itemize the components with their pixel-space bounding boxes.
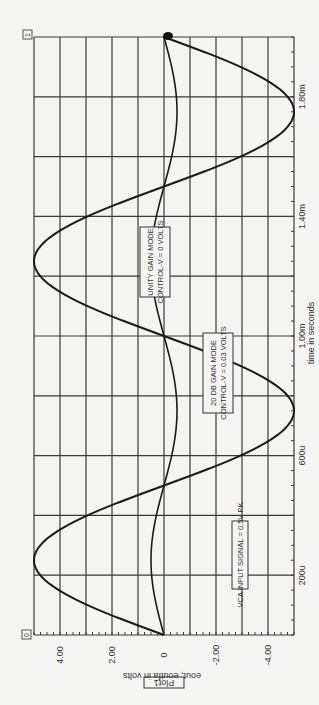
time-axis-title: time in seconds — [306, 301, 316, 364]
annotation-text: UNITY GAIN MODE — [146, 228, 155, 295]
start-marker-label: 0 — [23, 633, 30, 637]
annotation-text: CONTROL-V = 0 VOLTS — [156, 220, 165, 303]
waveform-chart: 200u600u1.00m1.40m1.80mtime in seconds4.… — [0, 0, 319, 705]
voltage-tick-label: 4.00 — [55, 646, 65, 664]
annotations: UNITY GAIN MODECONTROL-V = 0 VOLTS20 DB … — [140, 220, 248, 607]
voltage-tick-label: -4.00 — [263, 645, 273, 666]
plot-title: Plot1 — [154, 678, 175, 688]
time-tick-label: 1.80m — [297, 84, 307, 109]
annotation-box — [140, 227, 170, 297]
corner-markers: 10 — [22, 30, 173, 639]
time-tick-label: 1.40m — [297, 204, 307, 229]
end-marker-label: 1 — [24, 33, 31, 37]
voltage-tick-label: 2.00 — [107, 646, 117, 664]
time-tick-label: 600u — [297, 446, 307, 466]
cursor-marker-icon — [163, 32, 173, 40]
annotation-text: VCA INPUT SIGNAL = 0.5V PK — [236, 503, 245, 608]
annotation-box — [203, 333, 233, 413]
voltage-tick-label: 0 — [159, 652, 169, 657]
voltage-tick-label: -2.00 — [211, 645, 221, 666]
annotation-text: CONTROL-V = 0.03 VOLTS — [219, 326, 228, 419]
time-tick-label: 200u — [297, 565, 307, 585]
annotation-text: 20 DB GAIN MODE — [209, 340, 218, 406]
